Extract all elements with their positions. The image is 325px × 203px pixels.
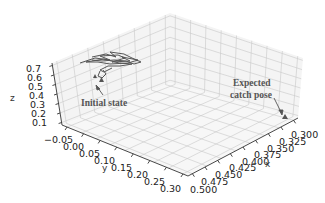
z-axis-label: z	[10, 93, 15, 103]
expected-catch-pose-label-line2: catch pose	[230, 90, 272, 100]
initial-state-label: Initial state	[81, 98, 127, 108]
y-tick: 0.30	[160, 183, 181, 194]
3d-plot: Initial state Expected catch pose 0.7 0.…	[0, 0, 325, 203]
z-tick: 0.1	[32, 117, 47, 128]
expected-catch-pose-label-line1: Expected	[233, 78, 271, 88]
x-tick: 0.500	[190, 184, 217, 195]
x-axis-label: x	[265, 159, 271, 169]
z-tick-labels: 0.7 0.6 0.5 0.4 0.3 0.2 0.1	[26, 63, 47, 128]
y-axis-label: y	[102, 163, 108, 173]
